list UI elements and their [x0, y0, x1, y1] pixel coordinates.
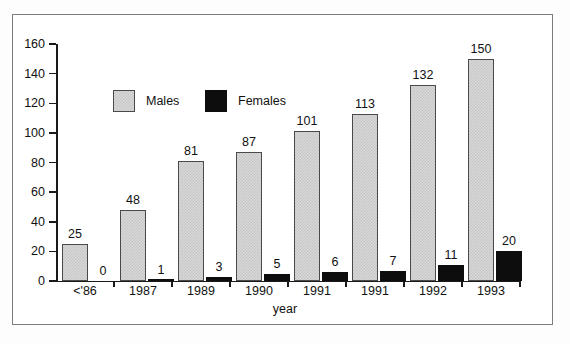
y-axis-line: [56, 44, 58, 282]
legend-swatch-males-icon: [113, 90, 135, 112]
x-axis-group-label: 1989: [172, 285, 230, 298]
bar-females: [438, 265, 464, 281]
y-axis-tick: [49, 103, 56, 105]
legend-swatch-females-icon: [205, 90, 227, 112]
bar-females: [206, 277, 232, 281]
y-axis-tick-label: 0: [5, 275, 45, 288]
x-axis-group-label: 1993: [462, 285, 520, 298]
bar-value-label-females: 3: [199, 261, 239, 274]
bar-females: [496, 251, 522, 281]
bar-value-label-females: 6: [315, 256, 355, 269]
y-axis-tick: [49, 191, 56, 193]
bar-value-label-females: 20: [489, 235, 529, 248]
bar-value-label-males: 113: [345, 98, 385, 111]
y-axis-tick-label: 20: [5, 245, 45, 258]
x-axis-title: year: [0, 302, 570, 316]
bar-value-label-females: 11: [431, 249, 471, 262]
y-axis-tick: [49, 221, 56, 223]
y-axis-tick-label: 40: [5, 216, 45, 229]
bar-value-label-males: 87: [229, 136, 269, 149]
x-axis-group-label: 1987: [114, 285, 172, 298]
y-axis-tick-label: 140: [5, 68, 45, 81]
bar-value-label-females: 7: [373, 255, 413, 268]
y-axis-tick: [49, 132, 56, 134]
y-axis-tick-label: 80: [5, 157, 45, 170]
bar-value-label-males: 101: [287, 115, 327, 128]
legend-label-females: Females: [238, 94, 286, 108]
bar-females: [148, 279, 174, 281]
bar-value-label-females: 1: [141, 264, 181, 277]
bar-value-label-males: 25: [55, 228, 95, 241]
x-axis-group-label: 1991: [346, 285, 404, 298]
y-axis-tick: [49, 280, 56, 282]
y-axis-tick-label: 120: [5, 97, 45, 110]
y-axis-tick-label: 160: [5, 38, 45, 51]
bar-females: [322, 272, 348, 281]
bar-value-label-males: 81: [171, 145, 211, 158]
bar-value-label-males: 150: [461, 43, 501, 56]
y-axis-tick: [49, 162, 56, 164]
legend-item-males: Males: [113, 90, 179, 112]
chart-screenshot: 020406080100120140160 250481813875101611…: [0, 0, 570, 344]
plot-area: 020406080100120140160 250481813875101611…: [0, 0, 570, 344]
y-axis-tick: [49, 43, 56, 45]
y-axis-tick: [49, 251, 56, 253]
bar-value-label-females: 0: [83, 265, 123, 278]
bar-females: [380, 271, 406, 281]
x-axis-group-label: 1991: [288, 285, 346, 298]
x-axis-group-label: 1990: [230, 285, 288, 298]
bar-value-label-females: 5: [257, 258, 297, 271]
bar-value-label-males: 48: [113, 194, 153, 207]
bar-females: [264, 274, 290, 281]
x-axis-group-label: <'86: [56, 285, 114, 298]
bar-value-label-males: 132: [403, 69, 443, 82]
y-axis-tick: [49, 73, 56, 75]
y-axis-tick-label: 100: [5, 127, 45, 140]
legend-item-females: Females: [205, 90, 286, 112]
legend-label-males: Males: [146, 94, 179, 108]
x-axis-group-label: 1992: [404, 285, 462, 298]
y-axis-tick-label: 60: [5, 186, 45, 199]
